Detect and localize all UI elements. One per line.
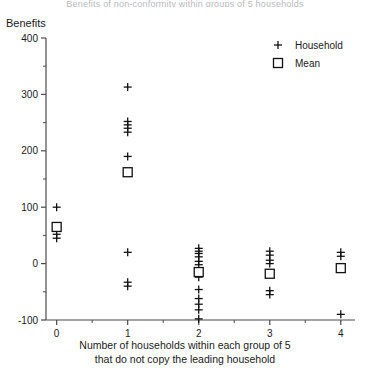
- square-marker: [274, 59, 283, 68]
- plus-marker: [274, 41, 282, 49]
- plus-marker: [266, 291, 274, 299]
- square-marker: [52, 222, 61, 231]
- square-marker: [194, 268, 203, 277]
- plus-marker: [124, 282, 132, 290]
- plot-area: 4003002001000-10001234HouseholdMean: [0, 0, 370, 380]
- square-marker: [265, 269, 274, 278]
- plus-marker: [124, 83, 132, 91]
- x-axis-caption: Number of households within each group o…: [0, 338, 370, 366]
- y-tick-label: 100: [21, 202, 38, 213]
- legend-label: Mean: [295, 58, 320, 69]
- plus-marker: [124, 128, 132, 136]
- plus-marker: [53, 234, 61, 242]
- x-axis-caption-line1: Number of households within each group o…: [0, 338, 370, 352]
- plus-marker: [53, 203, 61, 211]
- plus-marker: [195, 286, 203, 294]
- legend-item: Mean: [274, 58, 321, 69]
- legend-label: Household: [295, 40, 343, 51]
- plus-marker: [337, 252, 345, 260]
- y-tick-label: 400: [21, 33, 38, 44]
- y-tick-label: 200: [21, 145, 38, 156]
- plus-marker: [124, 152, 132, 160]
- y-tick-label: 300: [21, 89, 38, 100]
- legend: HouseholdMean: [274, 40, 343, 69]
- x-axis-caption-line2: that do not copy the leading household: [0, 352, 370, 366]
- series-household: [53, 83, 345, 323]
- legend-item: Household: [274, 40, 343, 51]
- plus-marker: [124, 248, 132, 256]
- plus-marker: [195, 306, 203, 314]
- y-tick-label: -100: [18, 315, 38, 326]
- square-marker: [123, 168, 132, 177]
- square-marker: [336, 264, 345, 273]
- plus-marker: [337, 310, 345, 318]
- plus-marker: [195, 315, 203, 323]
- y-tick-label: 0: [32, 258, 38, 269]
- scatter-chart: Benefits of non-conformity within groups…: [0, 0, 370, 380]
